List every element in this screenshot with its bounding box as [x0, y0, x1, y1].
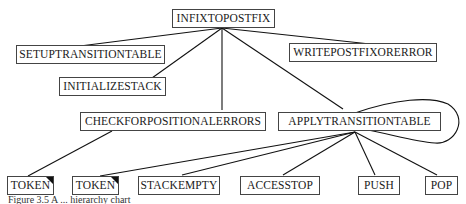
- node-push: PUSH: [358, 176, 400, 195]
- node-checkforpositionalerrors: CHECKFORPOSITIONALERRORS: [80, 112, 266, 131]
- node-token-1: TOKEN: [7, 176, 54, 195]
- connector-lines: [0, 0, 466, 204]
- node-applytransitiontable: APPLYTRANSITIONTABLE: [278, 112, 441, 131]
- node-initializestack: INITIALIZESTACK: [59, 77, 166, 96]
- node-accesstop: ACCESSTOP: [240, 176, 320, 195]
- node-stackempty: STACKEMPTY: [138, 176, 220, 195]
- node-writepostfixorerror: WRITEPOSTFIXORERROR: [289, 43, 437, 62]
- node-infixtopostfix: INFIXTOPOSTFIX: [172, 9, 275, 28]
- node-pop: POP: [425, 176, 458, 195]
- node-setuptransitiontable: SETUPTRANSITIONTABLE: [16, 45, 165, 64]
- node-token-2: TOKEN: [72, 176, 119, 195]
- figure-caption: Figure 3.5 A ... hierarchy chart: [8, 194, 130, 204]
